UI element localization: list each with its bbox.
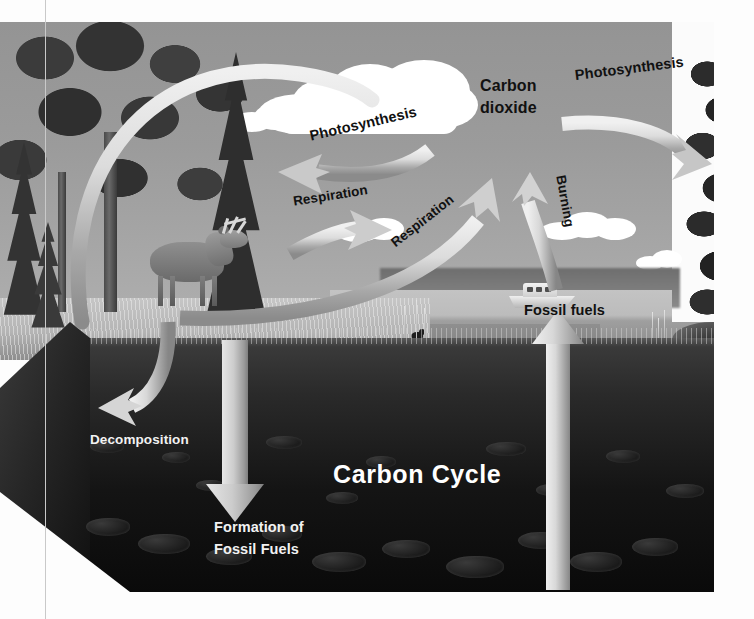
label-carbon-dioxide-line1: Carbon (480, 77, 537, 95)
boat-window (545, 287, 551, 292)
boat-window (527, 287, 533, 292)
cloud-lake-right (540, 208, 636, 242)
soil-surface-grass (66, 328, 714, 344)
page-margin-rule (45, 0, 46, 619)
label-fossil-fuels-lake: Fossil fuels (524, 302, 605, 318)
deer-leg (200, 276, 205, 306)
right-conifer-tree (676, 50, 714, 350)
label-carbon-dioxide-line2: dioxide (480, 99, 537, 117)
illustration-page: Photosynthesis Carbon dioxide Photosynth… (0, 0, 754, 619)
boat-window (536, 287, 542, 292)
deer-leg (170, 276, 175, 306)
deer-leg (158, 276, 163, 306)
carbon-cycle-diagram: Photosynthesis Carbon dioxide Photosynth… (0, 22, 714, 592)
deer (150, 218, 248, 310)
label-formation-line2: Fossil Fuels (214, 541, 299, 557)
diagram-title: Carbon Cycle (333, 460, 501, 489)
label-formation-line1: Formation of (214, 519, 304, 535)
deer-leg (212, 276, 217, 306)
label-decomposition: Decomposition (90, 432, 189, 447)
tree-trunk (104, 132, 117, 312)
rock-field (66, 422, 714, 592)
